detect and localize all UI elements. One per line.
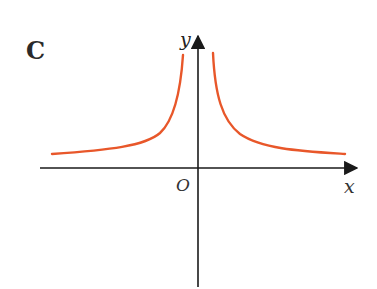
curve-right-branch — [213, 53, 345, 154]
y-axis-label: y — [180, 28, 191, 50]
x-axis-label: x — [344, 175, 355, 197]
curve-left-branch — [52, 55, 183, 154]
panel-label: C — [26, 36, 45, 65]
origin-label: O — [176, 175, 190, 195]
